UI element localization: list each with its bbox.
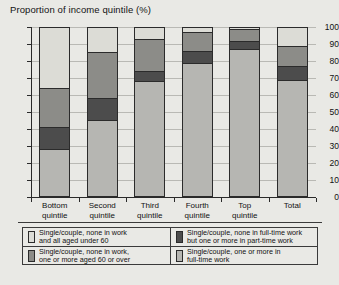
x-axis-label: Bottomquintile [31,201,79,220]
legend-label: Single/couple, none in workand all aged … [39,229,127,245]
bar-segment[interactable] [229,29,260,41]
x-axis-label: Thirdquintile [126,201,174,220]
stacked-bar[interactable] [87,27,118,197]
chart-legend: Single/couple, none in workand all aged … [22,227,318,265]
y-axis-tick-mark [27,180,31,181]
x-axis-underline [18,222,322,223]
x-axis-label-line: Fourth [174,201,222,211]
gridline [31,78,316,79]
legend-label-line: and all aged under 60 [39,237,127,245]
bar-segment[interactable] [39,27,70,88]
gridline [31,95,316,96]
x-axis-label-line: Bottom [31,201,79,211]
bar-segment[interactable] [87,98,118,120]
bar-segment[interactable] [182,63,213,197]
bar-segment[interactable] [87,52,118,98]
bar-group[interactable] [182,27,213,197]
y-axis-tick-mark [27,78,31,79]
x-axis-label-line: Second [79,201,127,211]
bar-segment[interactable] [229,49,260,197]
legend-swatch-icon [176,231,183,243]
bar-group[interactable] [87,27,118,197]
legend-label: Single/couple, none in work,one or more … [39,248,130,264]
bar-segment[interactable] [134,71,165,81]
bar-segment[interactable] [229,27,260,29]
bar-segment[interactable] [39,149,70,197]
bar-segment[interactable] [134,81,165,197]
x-axis-label: Fourthquintile [174,201,222,220]
y-axis-tick-label: 100 [315,23,339,32]
bar-segment[interactable] [182,32,213,51]
bar-segment[interactable] [39,127,70,149]
y-axis-tick-label: 80 [315,57,339,66]
bar-segment[interactable] [182,51,213,63]
stacked-bar[interactable] [39,27,70,197]
y-axis-tick-mark [27,112,31,113]
y-axis-tick-label: 60 [315,91,339,100]
y-axis-line [31,27,32,198]
chart-container: Proportion of income quintile (%) Bottom… [0,0,339,285]
bar-segment[interactable] [277,46,308,66]
y-axis-tick-label: 40 [315,125,339,134]
bar-segment[interactable] [134,27,165,39]
legend-label-line: one or more aged 60 or over [39,256,130,264]
x-axis-label-line: Total [269,201,317,211]
gridline [31,61,316,62]
stacked-bar[interactable] [182,27,213,197]
y-axis-tick-mark [27,163,31,164]
gridline [31,163,316,164]
y-axis-tick-label: 50 [315,108,339,117]
plot-area [31,27,316,197]
y-axis-tick-label: 30 [315,142,339,151]
bottom-cut-text [0,277,339,285]
legend-label: Single/couple, one or more infull-time w… [187,248,281,264]
y-axis-tick-label: 0 [315,193,339,202]
legend-swatch-icon [28,250,35,262]
legend-label: Single/couple, none in full-time workbut… [187,229,302,245]
x-axis-label-line: Third [126,201,174,211]
bar-segment[interactable] [229,41,260,50]
legend-label-line: but one or more in part-time work [187,237,302,245]
bar-segment[interactable] [39,88,70,127]
y-axis-tick-label: 20 [315,159,339,168]
chart-title: Proportion of income quintile (%) [10,4,151,15]
legend-item-none-in-full-time-part-time[interactable]: Single/couple, none in full-time workbut… [171,228,317,246]
gridline [31,180,316,181]
gridline [31,112,316,113]
bar-group[interactable] [277,27,308,197]
bar-segment[interactable] [87,27,118,52]
legend-item-none-in-work-60-or-over[interactable]: Single/couple, none in work,one or more … [23,247,169,265]
bar-segment[interactable] [182,27,213,32]
y-axis-tick-mark [27,95,31,96]
stacked-bar[interactable] [277,27,308,197]
legend-item-one-or-more-full-time[interactable]: Single/couple, one or more infull-time w… [171,247,317,265]
x-axis-area: BottomquintileSecondquintileThirdquintil… [31,198,316,222]
bar-segment[interactable] [134,39,165,71]
x-axis-label-line: quintile [31,211,79,221]
legend-label-line: full-time work [187,256,281,264]
bar-group[interactable] [229,27,260,197]
bar-segment[interactable] [277,27,308,46]
bar-group[interactable] [39,27,70,197]
gridline [31,27,316,28]
y-axis-tick-mark [27,61,31,62]
y-axis-tick-mark [27,197,31,198]
legend-item-none-in-work-under-60[interactable]: Single/couple, none in workand all aged … [23,228,169,246]
bar-group[interactable] [134,27,165,197]
x-axis-label-line: quintile [79,211,127,221]
bar-segment[interactable] [277,80,308,197]
y-axis-tick-mark [27,146,31,147]
x-axis-label: Total [269,201,317,211]
bar-segment[interactable] [277,66,308,80]
stacked-bar[interactable] [134,27,165,197]
y-axis-tick-mark [27,44,31,45]
x-axis-label-line: quintile [174,211,222,221]
y-axis-tick-mark [27,27,31,28]
x-axis-label-line: quintile [126,211,174,221]
stacked-bar[interactable] [229,27,260,197]
x-axis-label-line: Top [221,201,269,211]
y-axis-tick-label: 70 [315,74,339,83]
x-axis-label: Topquintile [221,201,269,220]
gridline [31,146,316,147]
bar-segment[interactable] [87,120,118,197]
